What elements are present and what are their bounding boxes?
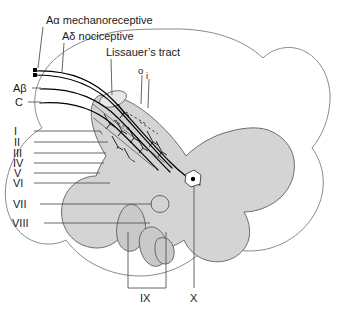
label-a-delta-nociceptive: Aδ nociceptive [62,30,134,42]
label-a-beta: Aβ [13,82,27,94]
label-lamina-9: IX [140,292,151,304]
label-lissauers-tract: Lissauer’s tract [106,46,180,58]
label-lamina-6: VI [13,177,23,189]
label-lamina-8: VIII [12,217,29,229]
leader-a-alpha [38,27,43,68]
axon-origin-markers [33,68,37,77]
label-lamina-7: VII [13,198,26,210]
label-lamina-10: X [190,292,198,304]
label-tract-outer: o [138,65,143,76]
diagram-canvas: Aα mechanoreceptive Aδ nociceptive Lissa… [0,0,343,321]
label-tract-inner: i [146,70,148,81]
label-c-fiber: C [15,96,23,108]
label-a-alpha-mechanoreceptive: Aα mechanoreceptive [46,14,153,26]
spinal-cord-laminae-diagram: Aα mechanoreceptive Aδ nociceptive Lissa… [0,0,343,321]
